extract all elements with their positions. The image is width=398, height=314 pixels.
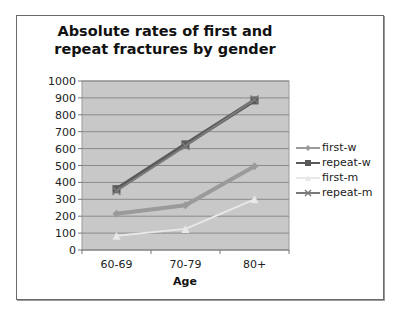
legend-item-repeat-m: repeat-m (296, 185, 386, 200)
legend-label: first-m (322, 171, 358, 184)
legend-item-first-w: first-w (296, 140, 386, 155)
legend-label: repeat-m (322, 186, 373, 199)
y-tick-label: 800 (55, 109, 76, 122)
y-tick-label: 500 (55, 160, 76, 173)
y-tick-label: 100 (55, 227, 76, 240)
y-tick-label: 300 (55, 193, 76, 206)
x-tick-label: 60-69 (101, 258, 133, 271)
y-tick-label: 700 (55, 126, 76, 139)
legend-swatch-icon (296, 143, 320, 153)
y-axis-ticks: 01002003004005006007008009001000 (48, 75, 82, 257)
legend-swatch-icon (296, 158, 320, 168)
x-tick-label: 80+ (243, 258, 266, 271)
x-axis-label: Age (173, 275, 197, 288)
y-tick-label: 1000 (48, 75, 76, 88)
legend-swatch-icon (296, 173, 320, 183)
x-axis-ticks: 60-6970-7980+ (82, 250, 289, 271)
legend: first-wrepeat-wfirst-mrepeat-m (296, 140, 386, 200)
y-tick-label: 0 (69, 244, 76, 257)
y-tick-label: 900 (55, 92, 76, 105)
y-tick-label: 600 (55, 143, 76, 156)
legend-label: first-w (322, 141, 356, 154)
legend-swatch-icon (296, 188, 320, 198)
legend-item-first-m: first-m (296, 170, 386, 185)
x-tick-label: 70-79 (170, 258, 202, 271)
y-tick-label: 400 (55, 176, 76, 189)
y-tick-label: 200 (55, 210, 76, 223)
legend-item-repeat-w: repeat-w (296, 155, 386, 170)
legend-label: repeat-w (322, 156, 371, 169)
